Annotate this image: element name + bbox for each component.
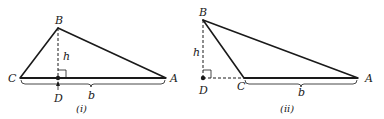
label-height: h [63,50,70,63]
label-base: b [88,89,95,102]
figure-i: B C A D h b (i) [8,14,178,114]
label-c-vertex: C [237,80,246,93]
label-d-foot: D [198,84,208,97]
foot-point-d [201,76,205,80]
side-cb [20,28,58,78]
side-bc [203,20,244,78]
label-c-vertex: C [8,72,17,85]
label-d-foot: D [53,92,63,105]
label-b-vertex: B [198,6,207,19]
figure-ii: B h D C A b (ii) [193,6,373,114]
caption-i: (i) [76,103,87,114]
base-brace [21,80,165,87]
label-a-vertex: A [169,72,178,85]
foot-point-d [56,76,60,80]
triangle-diagrams: B C A D h b (i) B h D C A b (ii) [0,0,384,119]
pointer-arrow-icon [56,81,60,86]
label-base: b [298,86,305,99]
side-ba [203,20,358,78]
label-a-vertex: A [364,72,373,85]
caption-ii: (ii) [280,103,294,114]
label-b-vertex: B [54,14,63,27]
label-height: h [193,46,200,59]
side-ba [58,28,166,78]
